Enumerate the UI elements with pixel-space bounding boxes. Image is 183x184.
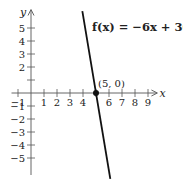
x-tick-label: 6 <box>106 97 112 108</box>
y-tick-label: 5 <box>19 23 25 34</box>
y-tick-label: 4 <box>19 36 25 47</box>
x-tick-label: 2 <box>54 97 60 108</box>
x-tick-label: 7 <box>119 97 125 108</box>
x-tick-label: 9 <box>145 97 151 108</box>
y-tick-label: −4 <box>10 140 25 151</box>
x-tick-label: 3 <box>67 97 73 108</box>
y-tick-label: −2 <box>10 114 25 125</box>
y-tick-label: −3 <box>10 127 25 138</box>
annotations: (5, 0)f(x) = −6x + 30 <box>92 20 183 96</box>
x-axis-label: x <box>159 87 166 100</box>
x-tick-label: 1 <box>41 97 47 108</box>
y-tick-label: −5 <box>10 153 25 164</box>
x-tick-label: 8 <box>132 97 138 108</box>
point-marker-icon <box>93 90 99 96</box>
y-axis-label: y <box>19 6 27 19</box>
x-tick-label: 4 <box>80 97 86 108</box>
function-label: f(x) = −6x + 30 <box>92 20 183 34</box>
function-graph: xy −112346789−5−4−3−2−12345 (5, 0)f(x) =… <box>0 0 183 184</box>
point-label: (5, 0) <box>98 78 125 89</box>
y-tick-label: −1 <box>10 101 25 112</box>
y-tick-label: 2 <box>19 62 25 73</box>
y-tick-label: 3 <box>19 49 25 60</box>
